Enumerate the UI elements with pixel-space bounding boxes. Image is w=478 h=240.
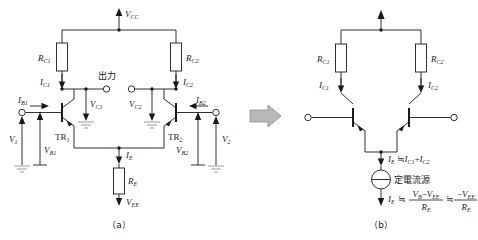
rc1-label-b: RC1 (316, 54, 330, 65)
transform-arrow-icon (250, 105, 281, 127)
vee-arrow (116, 194, 122, 206)
v2-label: V2 (222, 134, 231, 145)
re-label: RE (127, 176, 138, 187)
formula-approx-2: ≒ (446, 194, 454, 204)
ie-label: IE (125, 150, 133, 161)
rc1-label: RC1 (37, 53, 51, 64)
resistor-re (114, 168, 125, 194)
vcc-supply-arrow-b (377, 10, 384, 30)
ic2-arrow-b (418, 78, 424, 93)
vee-label: VEE (126, 197, 139, 208)
formula-numerator-2: −VEE (457, 189, 475, 200)
resistor-rc1-b (336, 44, 347, 72)
v1-label: V1 (9, 134, 18, 145)
formula-numerator-1: VB−VEE (412, 189, 439, 200)
ie-arrow-b (378, 152, 384, 166)
ib2-label: IB2 (195, 95, 206, 106)
constant-current-source-label: 定電流源 (394, 174, 430, 185)
circuit-b: RC1 RC2 IC1 IC2 (305, 10, 477, 230)
ic1-arrow-b (338, 78, 344, 93)
ie-bottom-arrow-b (378, 193, 384, 206)
resistor-rc1 (57, 43, 68, 71)
vb2-label: VB2 (176, 145, 188, 156)
left-collector-lead-b (341, 93, 353, 104)
circuit-a: VCC RC1 RC2 IC1 IC2 (9, 8, 231, 230)
caption-a: （a） (107, 220, 131, 230)
right-collector-node (174, 87, 177, 90)
transistor-left-b (330, 108, 365, 152)
input-terminal-left-b[interactable] (305, 114, 311, 120)
vc2-label: VC2 (129, 99, 142, 110)
input-terminal-right-b[interactable] (451, 114, 457, 120)
input-terminal-v1[interactable] (19, 109, 25, 115)
figure-container: VCC RC1 RC2 IC1 IC2 (0, 0, 478, 240)
ic1-label: IC1 (39, 77, 50, 88)
ie-relation-label: IE ≒IC1+IC2 (387, 154, 430, 165)
resistor-rc2-b (416, 44, 427, 72)
formula-approx-1: ≒ (398, 194, 406, 204)
ic2-arrow (173, 74, 179, 89)
output-terminal-right[interactable] (128, 86, 134, 92)
constant-current-source-symbol (372, 166, 391, 193)
ic1-label-b: IC1 (318, 80, 329, 91)
circuit-figure: VCC RC1 RC2 IC1 IC2 (0, 0, 478, 240)
vcc-label: VCC (125, 9, 140, 20)
ib1-label: IB1 (17, 95, 28, 106)
tr1-label: TR1 (55, 132, 70, 143)
formula-denominator-1: RE (420, 202, 431, 213)
vc1-label: VC1 (90, 99, 103, 110)
left-collector-node (60, 87, 63, 90)
formula-denominator-2: RE (460, 202, 471, 213)
resistor-rc2 (171, 43, 182, 71)
ic1-arrow (59, 74, 65, 89)
emitter-current-formula: IE ≒ VB−VEE RE ≒ −VEE RE (387, 189, 477, 213)
vb1-measure (33, 112, 47, 165)
tr2-label: TR2 (168, 132, 183, 143)
vb2-measure (191, 112, 205, 165)
ie-arrow (116, 148, 122, 164)
vcc-node-b (379, 28, 382, 31)
ic2-label: IC2 (182, 77, 193, 88)
vc2-measure (144, 87, 160, 128)
vb1-label: VB1 (44, 145, 56, 156)
v2-measure (208, 116, 224, 172)
transistor-right-b (397, 108, 432, 152)
input-terminal-v2[interactable] (213, 109, 219, 115)
caption-b: （b） (369, 220, 393, 230)
output-label: 出力 (98, 70, 116, 81)
rc2-label: RC2 (185, 53, 199, 64)
output-terminal-left[interactable] (103, 86, 109, 92)
right-collector-lead-b (409, 93, 421, 104)
formula-lhs: IE (387, 194, 395, 205)
vcc-supply-arrow (116, 8, 123, 30)
ic2-label-b: IC2 (427, 80, 438, 91)
ib1-arrow (30, 103, 49, 109)
rc2-label-b: RC2 (430, 54, 444, 65)
vcc-node (117, 28, 120, 31)
